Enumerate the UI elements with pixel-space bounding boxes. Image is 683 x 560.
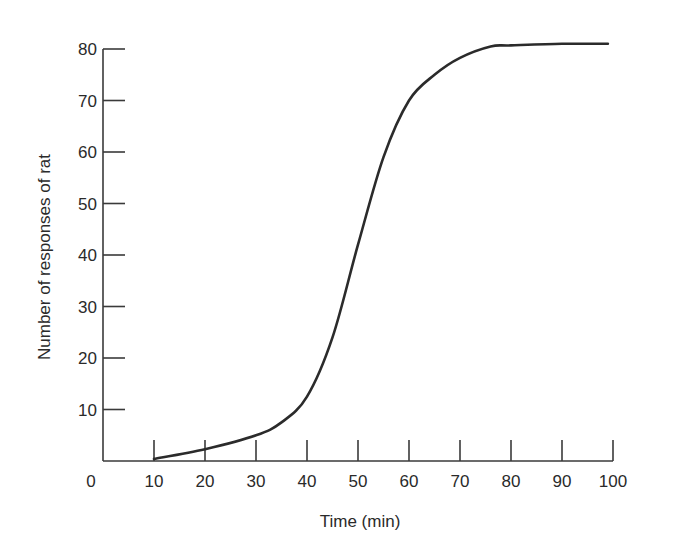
x-tick-label: 10 — [145, 472, 164, 491]
x-tick-label: 40 — [298, 472, 317, 491]
y-tick-label: 10 — [78, 401, 97, 420]
x-axis: 0102030405060708090100 — [86, 440, 627, 491]
y-tick-label: 40 — [78, 246, 97, 265]
y-axis: 1020304050607080 — [78, 40, 125, 461]
sigmoid-line-chart: 1020304050607080 0102030405060708090100 … — [0, 0, 683, 560]
x-tick-label: 60 — [400, 472, 419, 491]
response-curve — [154, 44, 608, 459]
x-tick-label: 80 — [502, 472, 521, 491]
y-tick-label: 60 — [78, 143, 97, 162]
y-tick-label: 80 — [78, 40, 97, 59]
x-tick-label: 20 — [196, 472, 215, 491]
x-tick-label: 30 — [247, 472, 266, 491]
x-tick-label: 100 — [599, 472, 627, 491]
x-tick-label: 90 — [553, 472, 572, 491]
x-tick-label: 50 — [349, 472, 368, 491]
y-tick-label: 50 — [78, 195, 97, 214]
x-axis-title: Time (min) — [320, 512, 401, 531]
y-axis-title: Number of responses of rat — [35, 154, 54, 360]
y-tick-label: 20 — [78, 349, 97, 368]
x-tick-label: 70 — [451, 472, 470, 491]
y-tick-label: 30 — [78, 298, 97, 317]
y-tick-label: 70 — [78, 92, 97, 111]
x-tick-label: 0 — [86, 472, 95, 491]
